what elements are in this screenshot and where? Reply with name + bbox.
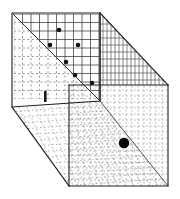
perspective-box-illustration (0, 0, 180, 199)
back-wall-dot-2 (48, 43, 53, 48)
floor-dot (119, 138, 129, 148)
back-wall-dot-5 (73, 73, 78, 78)
back-wall-dot-4 (64, 60, 69, 65)
back-wall-dot-1 (57, 28, 62, 33)
wall-tick-mark (44, 91, 47, 102)
back-wall-dot-3 (76, 43, 81, 48)
back-wall-face (13, 14, 100, 102)
figure-root (0, 0, 180, 199)
